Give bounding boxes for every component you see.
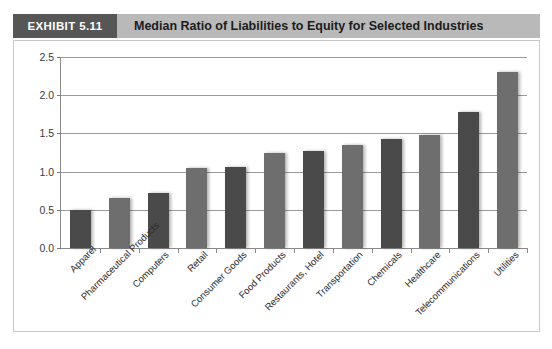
exhibit-header: EXHIBIT 5.11 Median Ratio of Liabilities… [13,14,540,38]
y-axis-tick-label: 0.0 [24,242,54,254]
bar [70,210,91,248]
x-axis-category-label: Apparel [67,249,92,274]
exhibit-container: EXHIBIT 5.11 Median Ratio of Liabilities… [0,0,552,349]
plot-wrap: 0.00.51.01.52.02.5 ApparelPharmaceutical… [14,41,539,331]
bar [109,198,130,248]
y-axis-tick-label: 1.5 [24,127,54,139]
bar [458,112,479,248]
bar-series [61,57,527,248]
y-axis-tick-label: 1.0 [24,166,54,178]
bar [497,72,518,248]
bar [342,145,363,248]
x-axis-category-label: Transportation [147,249,365,349]
plot-area [60,57,527,249]
x-axis-tickmark [527,248,528,253]
bar [303,151,324,248]
x-axis-category-label: Computers [90,249,171,330]
bar [225,167,246,248]
bar [186,168,207,248]
bar [381,139,402,248]
exhibit-title: Median Ratio of Liabilities to Equity fo… [117,14,540,38]
x-axis-category-labels: ApparelPharmaceutical ProductsComputersR… [60,249,526,329]
y-axis-tick-label: 0.5 [24,204,54,216]
y-axis-tick-labels: 0.00.51.01.52.02.5 [22,41,54,331]
y-axis-tick-label: 2.5 [24,51,54,63]
y-axis-tick-label: 2.0 [24,89,54,101]
chart-frame: 0.00.51.01.52.02.5 ApparelPharmaceutical… [13,40,540,332]
bar [264,153,285,249]
exhibit-number-badge: EXHIBIT 5.11 [13,14,117,38]
bar [419,135,440,248]
